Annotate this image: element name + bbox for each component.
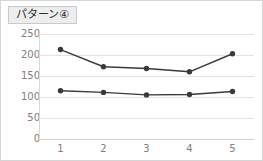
data-point-marker bbox=[187, 69, 192, 74]
data-point-marker bbox=[58, 47, 63, 52]
plot-area: 050100150200250 12345 bbox=[1, 1, 263, 161]
data-point-marker bbox=[144, 66, 149, 71]
data-point-marker bbox=[230, 89, 235, 94]
chart-panel: パターン④ 050100150200250 12345 bbox=[0, 0, 263, 161]
data-point-marker bbox=[187, 92, 192, 97]
series-layer bbox=[1, 1, 263, 161]
data-point-marker bbox=[101, 64, 106, 69]
line-series bbox=[58, 88, 235, 98]
data-point-marker bbox=[144, 92, 149, 97]
line-series bbox=[58, 47, 235, 75]
data-point-marker bbox=[58, 88, 63, 93]
data-point-marker bbox=[230, 51, 235, 56]
data-point-marker bbox=[101, 90, 106, 95]
